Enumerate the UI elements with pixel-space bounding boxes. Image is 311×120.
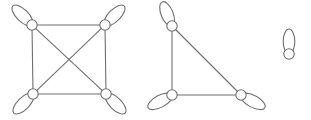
vertex-tri-bottom-right (236, 90, 246, 100)
vertex-k4-bottom-left (28, 89, 38, 99)
vertex-isolated (284, 49, 294, 59)
edge-tri-hypotenuse (175, 29, 238, 92)
loops-layer (9, 0, 295, 117)
edge-k4-left (32, 30, 33, 90)
vertex-tri-bottom-left (167, 90, 177, 100)
edges-layer (32, 25, 238, 95)
edge-k4-right (105, 30, 106, 90)
graph-diagram (0, 0, 311, 120)
vertex-k4-bottom-right (101, 89, 111, 99)
graph-canvas (0, 0, 311, 120)
vertex-tri-top (167, 21, 177, 31)
vertices-layer (27, 20, 294, 100)
vertex-k4-top-right (100, 20, 110, 30)
vertex-k4-top-left (27, 20, 37, 30)
